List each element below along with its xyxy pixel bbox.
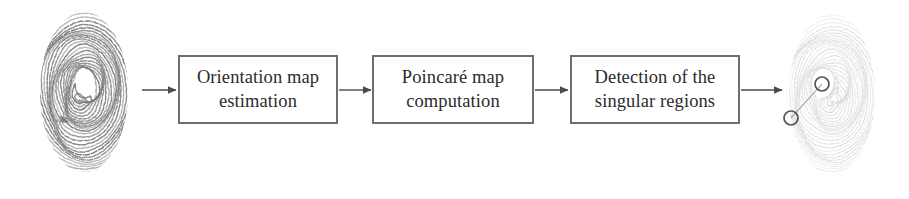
output-ridge-pattern [782, 8, 894, 178]
output-fingerprint-image [782, 8, 894, 178]
stage-box-orientation-map-estimation[interactable]: Orientation map estimation [178, 55, 338, 124]
output-fingerprint-svg [782, 8, 894, 178]
stage-label-poincare-map-computation: Poincaré map computation [396, 66, 510, 113]
stage-label-orientation-map-estimation: Orientation map estimation [191, 66, 325, 113]
pipeline-diagram: Orientation map estimation Poincaré map … [0, 0, 909, 199]
stage-box-detection-of-singular-regions[interactable]: Detection of the singular regions [570, 55, 740, 124]
input-fingerprint-image [28, 8, 140, 178]
stage-label-detection-of-singular-regions: Detection of the singular regions [589, 66, 722, 113]
input-ridge-pattern [28, 8, 140, 178]
input-fingerprint-svg [28, 8, 140, 178]
stage-box-poincare-map-computation[interactable]: Poincaré map computation [372, 55, 534, 124]
